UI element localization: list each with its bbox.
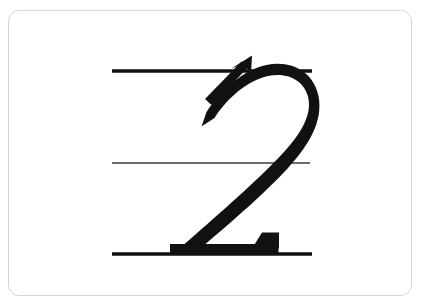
handwriting-diagram-svg bbox=[0, 0, 421, 306]
flashcard-stage bbox=[0, 0, 421, 306]
numeral-two-glyph bbox=[170, 64, 319, 255]
numeral-two-base-bar bbox=[170, 244, 279, 255]
numeral-two-curve-stroke bbox=[184, 64, 319, 245]
handwriting-glyph-area bbox=[0, 0, 421, 306]
